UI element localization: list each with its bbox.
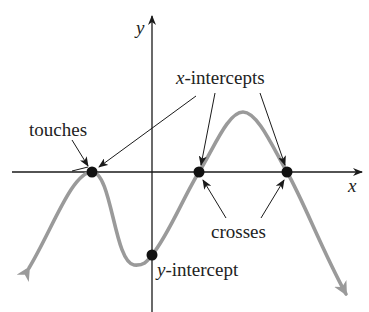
polynomial-graph-diagram: y x touches x-intercepts crosses y-inter… <box>0 0 369 312</box>
cross-point-1 <box>194 167 205 178</box>
cross-point-2 <box>282 167 293 178</box>
y-intercept-var: y <box>155 259 166 280</box>
y-intercept-point <box>147 250 158 261</box>
y-axis-label: y <box>134 17 145 38</box>
crosses-pointer-1 <box>203 180 226 218</box>
y-intercept-text: -intercept <box>165 259 239 280</box>
x-intercepts-text: -intercepts <box>184 67 264 88</box>
touches-label: touches <box>29 119 87 140</box>
crosses-label: crosses <box>211 221 266 242</box>
crosses-pointer-2 <box>261 180 284 218</box>
touches-pointer <box>72 167 88 171</box>
x-intercepts-pointer-1 <box>99 96 196 167</box>
touch-point <box>87 167 98 178</box>
x-intercepts-label: x-intercepts <box>175 67 265 88</box>
touches-pointer-arrow <box>72 140 88 166</box>
y-intercept-label: y-intercept <box>155 259 239 280</box>
x-axis-label: x <box>347 175 357 196</box>
